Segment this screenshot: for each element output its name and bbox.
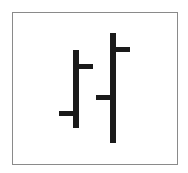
bar-1-close-tick — [79, 64, 93, 69]
bar-2-open-tick — [96, 95, 110, 100]
bar-2-close-tick — [116, 47, 130, 52]
bar-1-range-line — [73, 50, 79, 128]
icon-frame: OHLC bar chart — [12, 12, 178, 165]
bar-1-open-tick — [59, 111, 73, 116]
